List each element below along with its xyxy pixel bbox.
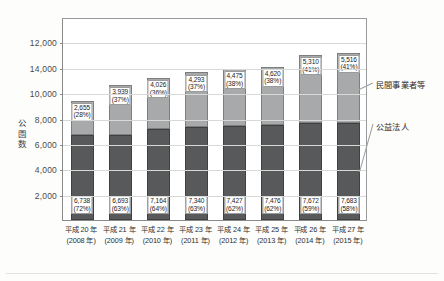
y-gridline: [63, 196, 367, 197]
data-label-private-businesses: 2,655(28%): [72, 103, 93, 121]
bar-group[interactable]: 6,738(72%)2,655(28%): [71, 17, 94, 220]
y-gridline: [63, 120, 367, 121]
y-tick-mark: [60, 69, 63, 70]
plot-frame-top: [62, 18, 367, 19]
bar-group[interactable]: 7,672(59%)5,310(41%): [299, 17, 322, 220]
bar-group[interactable]: 7,476(62%)4,620(38%): [261, 17, 284, 220]
data-label-public-corporations: 7,340(63%): [186, 196, 207, 214]
y-tick-mark: [60, 43, 63, 44]
x-label-western-year: (2015 年): [325, 235, 371, 246]
bar-percent-label: (62%): [264, 205, 281, 212]
bar-value-label: 4,620: [264, 70, 281, 77]
plot-area: 6,738(72%)2,655(28%)6,693(63%)3,939(37%)…: [62, 18, 367, 221]
data-label-public-corporations: 6,738(72%): [72, 196, 93, 214]
data-label-public-corporations: 7,164(64%): [148, 196, 169, 214]
bar-value-label: 6,738: [74, 197, 91, 204]
y-tick-mark: [60, 170, 63, 171]
data-label-private-businesses: 4,475(38%): [224, 71, 245, 89]
data-label-private-businesses: 4,293(37%): [186, 75, 207, 93]
bar-group[interactable]: 7,427(62%)4,475(38%): [223, 17, 246, 220]
data-label-private-businesses: 4,620(38%): [262, 69, 283, 87]
y-tick-mark: [60, 94, 63, 95]
bar-value-label: 7,476: [264, 197, 281, 204]
x-axis-labels: 平成 20 年(2008 年)平成 21 年(2009 年)平成 22 年(20…: [62, 224, 367, 258]
data-label-public-corporations: 7,683(58%): [338, 196, 359, 214]
bar-value-label: 7,164: [150, 197, 167, 204]
bar-percent-label: (72%): [74, 205, 91, 212]
bar-percent-label: (62%): [226, 205, 243, 212]
bar-percent-label: (64%): [150, 205, 167, 212]
bar-value-label: 4,026: [150, 81, 167, 88]
y-gridline: [63, 69, 367, 70]
bar-value-label: 7,683: [340, 197, 357, 204]
legend-label-public-corporations: 公益法人: [376, 120, 409, 132]
bar-value-label: 7,672: [302, 197, 319, 204]
bar-percent-label: (37%): [112, 96, 129, 103]
y-gridline: [63, 145, 367, 146]
y-axis-title: 公園数: [16, 118, 28, 150]
y-gridline: [63, 94, 367, 95]
data-label-private-businesses: 5,516(41%): [338, 55, 359, 73]
bar-percent-label: (59%): [302, 205, 319, 212]
y-tick-label: 10,000: [30, 89, 57, 99]
bar-percent-label: (28%): [74, 111, 91, 118]
bar-percent-label: (58%): [340, 205, 357, 212]
bar-percent-label: (38%): [264, 77, 281, 84]
bar-value-label: 4,293: [188, 76, 205, 83]
y-tick-label: 8,000: [35, 115, 57, 125]
data-label-private-businesses: 3,939(37%): [110, 87, 131, 105]
y-tick-label: 12,000: [30, 38, 57, 48]
y-tick-mark: [60, 120, 63, 121]
chart-figure: 公園数 6,738(72%)2,655(28%)6,693(63%)3,939(…: [0, 0, 444, 281]
data-label-public-corporations: 7,672(59%): [300, 196, 321, 214]
y-tick-label: 14,000: [30, 64, 57, 74]
legend-label-private-businesses: 民間事業者等: [376, 78, 425, 90]
data-label-private-businesses: 4,026(36%): [148, 80, 169, 98]
bar-group[interactable]: 6,693(63%)3,939(37%): [109, 17, 132, 220]
bar-percent-label: (63%): [112, 205, 129, 212]
y-tick-label: 2,000: [35, 191, 57, 201]
data-label-public-corporations: 7,476(62%): [262, 196, 283, 214]
y-gridline: [63, 43, 367, 44]
data-label-public-corporations: 7,427(62%): [224, 196, 245, 214]
bar-percent-label: (38%): [226, 80, 243, 87]
data-label-private-businesses: 5,310(41%): [300, 57, 321, 75]
bar-percent-label: (63%): [188, 205, 205, 212]
bar-group[interactable]: 7,340(63%)4,293(37%): [185, 17, 208, 220]
bar-percent-label: (37%): [188, 83, 205, 90]
y-tick-mark: [60, 196, 63, 197]
y-tick-label: 6,000: [35, 140, 57, 150]
bar-value-label: 2,655: [74, 104, 91, 111]
x-label-era-year: 平成 27 年: [325, 224, 371, 235]
bar-value-label: 7,427: [226, 197, 243, 204]
footer-divider: [6, 273, 438, 274]
bar-value-label: 6,693: [112, 197, 129, 204]
bar-group[interactable]: 7,683(58%)5,516(41%): [337, 17, 360, 220]
y-tick-mark: [60, 145, 63, 146]
bar-value-label: 5,310: [302, 58, 319, 65]
bar-value-label: 7,340: [188, 197, 205, 204]
data-label-public-corporations: 6,693(63%): [110, 196, 131, 214]
y-tick-label: 4,000: [35, 165, 57, 175]
y-gridline: [63, 170, 367, 171]
bar-value-label: 5,516: [340, 56, 357, 63]
plot-frame-right: [366, 18, 367, 221]
x-axis-label: 平成 27 年(2015 年): [325, 224, 371, 246]
bar-group[interactable]: 7,164(64%)4,026(36%): [147, 17, 170, 220]
bar-value-label: 4,475: [226, 72, 243, 79]
